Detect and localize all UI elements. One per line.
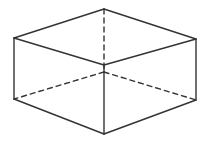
prism-svg xyxy=(0,0,209,144)
edge-bottom_right-bottom_front xyxy=(104,100,196,134)
prism-diagram xyxy=(0,0,209,144)
hidden-edge-bottom_back-bottom_left xyxy=(14,72,104,99)
edge-bottom_left-bottom_front xyxy=(14,99,104,134)
edge-top_back-top_left xyxy=(14,9,104,38)
hidden-edge-bottom_back-bottom_right xyxy=(104,72,196,100)
visible-edges xyxy=(14,9,196,134)
edge-top_right-top_front xyxy=(104,39,196,65)
hidden-edges xyxy=(14,9,196,100)
edge-top_back-top_right xyxy=(104,9,196,39)
edge-top_left-top_front xyxy=(14,38,104,65)
